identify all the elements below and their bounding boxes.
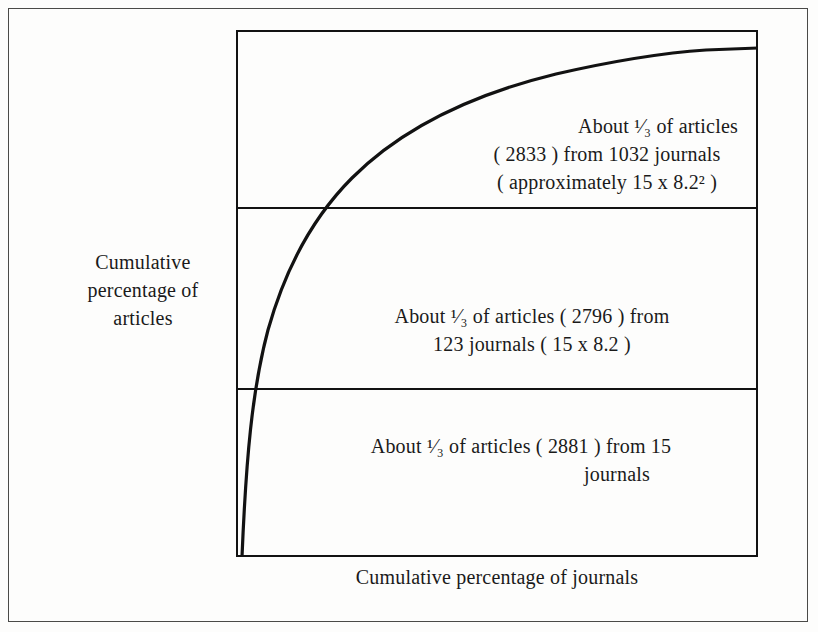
- band-middle-line-2: 123 journals ( 15 x 8.2 ): [352, 330, 712, 358]
- band-top-line-2: ( 2833 ) from 1032 journals: [456, 140, 758, 168]
- band-bottom-line-2: journals: [330, 460, 712, 488]
- y-axis-label-line-2: percentage of: [58, 276, 228, 304]
- y-axis-label: Cumulative percentage of articles: [58, 248, 228, 332]
- figure-page: Cumulative percentage of articles About …: [0, 0, 818, 632]
- band-bottom-line-1: About ¹⁄₃ of articles ( 2881 ) from 15: [330, 432, 712, 460]
- band-top-line-3: ( approximately 15 x 8.2² ): [456, 168, 758, 196]
- band-annotation-middle-third: About ¹⁄₃ of articles ( 2796 ) from 123 …: [352, 302, 712, 358]
- band-annotation-bottom-third: About ¹⁄₃ of articles ( 2881 ) from 15 j…: [330, 432, 712, 488]
- band-annotation-top-third: About ¹⁄₃ of articles ( 2833 ) from 1032…: [456, 112, 758, 196]
- y-axis-label-line-1: Cumulative: [58, 248, 228, 276]
- band-middle-line-1: About ¹⁄₃ of articles ( 2796 ) from: [352, 302, 712, 330]
- band-top-line-1: About ¹⁄₃ of articles: [456, 112, 758, 140]
- x-axis-label: Cumulative percentage of journals: [236, 566, 758, 589]
- y-axis-label-line-3: articles: [58, 304, 228, 332]
